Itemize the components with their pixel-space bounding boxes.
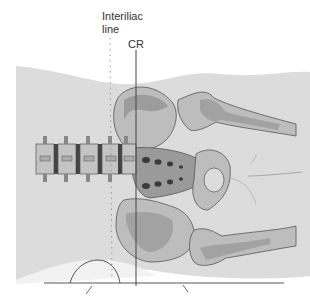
pelvis-diagram bbox=[0, 0, 310, 298]
